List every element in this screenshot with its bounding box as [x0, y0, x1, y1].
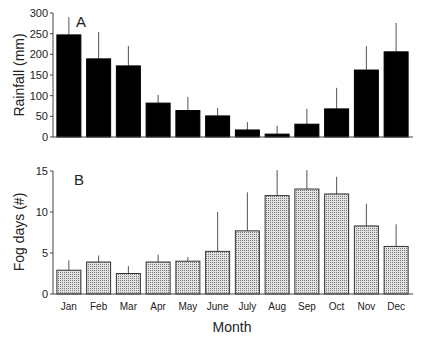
bar-june: [206, 116, 230, 137]
y-tick-label: 250: [30, 28, 48, 40]
bar-jan: [57, 35, 81, 137]
panel-label-b: B: [74, 171, 84, 188]
x-tick-label: Apr: [150, 301, 166, 312]
bar-aug: [265, 196, 289, 294]
y-tick-label: 0: [42, 288, 48, 300]
bar-feb: [87, 262, 111, 294]
x-tick-label: May: [178, 301, 197, 312]
x-tick-label: Aug: [268, 301, 286, 312]
y-tick-label: 5: [42, 247, 48, 259]
y-tick-label: 300: [30, 7, 48, 19]
rainfall-chart-panel: 050100150200250300 A Rainfall (mm): [11, 7, 413, 143]
bar-jan: [57, 270, 81, 294]
chart-svg: 050100150200250300 A Rainfall (mm) 05101…: [0, 0, 429, 349]
bar-nov: [354, 70, 378, 137]
x-tick-label: Dec: [387, 301, 405, 312]
panel-label-a: A: [76, 13, 86, 30]
bar-july: [235, 231, 259, 294]
x-tick-label: Oct: [329, 301, 345, 312]
month-tick-labels: JanFebMarAprMayJuneJulyAugSepOctNovDec: [61, 301, 405, 312]
x-tick-label: Nov: [357, 301, 375, 312]
bar-mar: [116, 274, 140, 295]
bar-oct: [325, 194, 349, 294]
bar-sep: [295, 189, 319, 294]
x-tick-label: June: [207, 301, 229, 312]
y-tick-label: 200: [30, 48, 48, 60]
y-tick-label: 100: [30, 90, 48, 102]
chart-figure: 050100150200250300 A Rainfall (mm) 05101…: [0, 0, 429, 349]
y-tick-label: 10: [36, 206, 48, 218]
bar-sep: [295, 124, 319, 137]
bar-mar: [116, 66, 140, 137]
bar-feb: [87, 59, 111, 137]
x-axis-label: Month: [213, 319, 252, 335]
x-tick-label: Sep: [298, 301, 316, 312]
bar-may: [176, 111, 200, 137]
bar-may: [176, 261, 200, 294]
bar-apr: [146, 262, 170, 294]
fog-days-y-axis-label: Fog days (#): [11, 193, 27, 272]
bar-july: [235, 130, 259, 137]
bar-nov: [354, 226, 378, 294]
y-tick-label: 50: [36, 110, 48, 122]
y-tick-label: 15: [36, 165, 48, 177]
bar-june: [206, 251, 230, 294]
bar-oct: [325, 109, 349, 137]
y-tick-label: 0: [42, 131, 48, 143]
fog-days-bars: [57, 170, 408, 294]
bar-dec: [384, 246, 408, 294]
rainfall-y-axis-label: Rainfall (mm): [11, 33, 27, 116]
rainfall-bars: [57, 17, 408, 137]
x-tick-label: July: [238, 301, 256, 312]
bar-apr: [146, 103, 170, 137]
fog-days-chart-panel: 051015 B Fog days (#) JanFebMarAprMayJun…: [11, 165, 413, 335]
x-tick-label: Feb: [90, 301, 108, 312]
y-tick-label: 150: [30, 69, 48, 81]
x-tick-label: Mar: [120, 301, 138, 312]
x-tick-label: Jan: [61, 301, 77, 312]
bar-dec: [384, 52, 408, 137]
